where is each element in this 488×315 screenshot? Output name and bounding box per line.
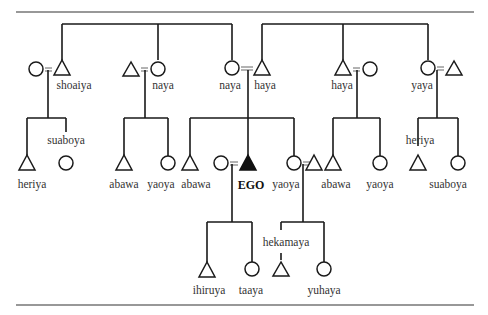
female-icon xyxy=(214,156,228,170)
male-icon xyxy=(19,155,35,170)
kin-label: haya xyxy=(254,80,276,92)
kin-label: suaboya xyxy=(429,179,467,191)
male-icon xyxy=(325,155,341,170)
kin-label: naya xyxy=(152,80,174,92)
kin-label: abawa xyxy=(109,179,138,191)
female-icon xyxy=(151,62,165,76)
female-icon xyxy=(317,262,331,276)
kin-label: taaya xyxy=(239,285,263,297)
female-icon xyxy=(421,61,435,75)
female-icon xyxy=(363,62,377,76)
male-icon xyxy=(446,61,462,75)
female-icon xyxy=(29,62,43,76)
kin-label: ihiruya xyxy=(193,285,226,297)
kin-label: heriya xyxy=(406,135,435,147)
male-icon xyxy=(199,262,215,277)
kin-label: naya xyxy=(219,80,241,92)
ego-icon xyxy=(240,155,256,170)
kin-label: abawa xyxy=(181,179,210,191)
kin-label: yaya xyxy=(411,80,433,92)
female-icon xyxy=(161,156,175,170)
male-icon xyxy=(116,155,132,170)
kin-label: suaboya xyxy=(47,135,85,147)
male-icon xyxy=(273,262,289,276)
male-icon xyxy=(410,155,426,170)
kin-label: shoaiya xyxy=(56,80,91,92)
sibling-line-right xyxy=(262,24,428,60)
kin-label: yaoya xyxy=(272,179,299,191)
kin-label: hekamaya xyxy=(263,237,310,249)
male-icon xyxy=(254,60,270,75)
kin-label: heriya xyxy=(18,179,47,191)
female-icon xyxy=(373,156,387,170)
ego-label: EGO xyxy=(238,179,265,191)
kin-label: yuhaya xyxy=(307,285,340,297)
female-icon xyxy=(451,156,465,170)
male-icon xyxy=(54,60,70,75)
male-icon xyxy=(335,60,351,75)
female-icon xyxy=(59,156,73,170)
sibling-line-left xyxy=(62,24,232,60)
female-icon xyxy=(225,61,239,75)
kin-label: haya xyxy=(331,80,353,92)
kin-label: abawa xyxy=(321,179,350,191)
kin-label: yaoya xyxy=(147,179,174,191)
female-icon xyxy=(245,262,259,276)
kinship-diagram xyxy=(0,0,488,315)
female-icon xyxy=(287,156,301,170)
male-icon xyxy=(182,155,198,170)
male-icon xyxy=(306,155,322,170)
male-icon xyxy=(123,62,139,76)
descent-ego-parents xyxy=(190,70,294,156)
kin-label: yaoya xyxy=(366,179,393,191)
